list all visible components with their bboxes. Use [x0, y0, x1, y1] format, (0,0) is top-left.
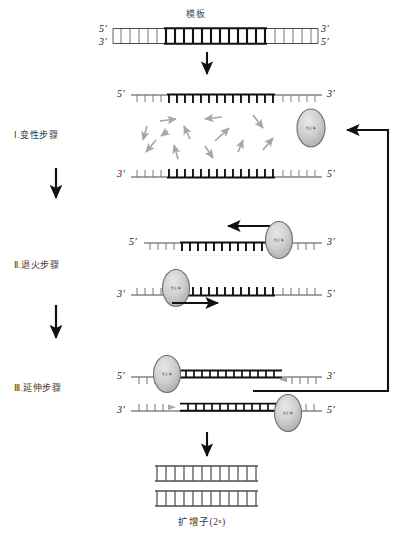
annealing-strand-top [144, 242, 322, 251]
synthesis-arrowhead-bottom [168, 405, 176, 410]
polymerase-oval-extension-bottom: 聚合酶 [275, 395, 302, 432]
pcr-diagram: 模板 Ⅰ.变性步骤 Ⅱ.退火步骤 Ⅲ.延伸步骤 扩增子(2ⁿ) 5' 3' 3'… [0, 0, 403, 538]
polymerase-oval-annealing-bottom: 聚合酶 [163, 270, 190, 307]
polymerase-oval-label-1: 聚合酶 [306, 126, 316, 130]
polymerase-oval-label-3: 聚合酶 [171, 286, 181, 290]
polymerase-oval-label-2: 聚合酶 [274, 238, 284, 242]
annealing-strand-bottom [131, 287, 322, 296]
polymerase-oval-label-5: 聚合酶 [283, 411, 293, 415]
denatured-strand-bottom [131, 169, 322, 178]
product-duplex-2 [155, 491, 258, 506]
free-nucleotide-arrows [143, 115, 273, 159]
product-duplex-1 [155, 466, 258, 481]
polymerase-oval-annealing-top: 聚合酶 [266, 222, 293, 259]
polymerase-oval-denaturation: 聚合酶 [297, 109, 325, 147]
denatured-strand-top [131, 94, 322, 103]
pcr-graphics: 聚合酶 [0, 0, 403, 538]
polymerase-oval-extension-top: 聚合酶 [154, 356, 181, 393]
polymerase-oval-label-4: 聚合酶 [162, 372, 172, 376]
template-duplex [113, 28, 318, 43]
